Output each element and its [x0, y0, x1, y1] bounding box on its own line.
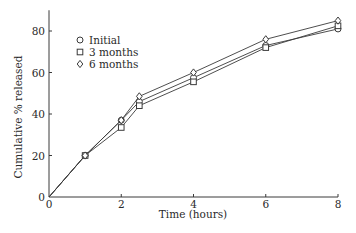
legend-item: 6 months [77, 58, 138, 70]
legend-label: Initial [89, 34, 121, 46]
y-tick-label: 0 [38, 191, 45, 203]
x-axis-label: Time (hours) [159, 208, 227, 220]
square-marker-icon [118, 125, 124, 131]
circle-legend-icon [77, 37, 83, 43]
y-tick-label: 80 [32, 25, 45, 37]
legend-label: 6 months [89, 58, 138, 70]
square-marker-icon [191, 79, 197, 85]
legend: Initial3 months6 months [77, 34, 138, 70]
x-tick-label: 6 [262, 198, 269, 210]
chart-canvas: 02468020406080 Initial3 months6 months T… [0, 0, 356, 233]
legend-label: 3 months [89, 46, 138, 58]
diamond-legend-icon [77, 60, 83, 67]
legend-item: Initial [77, 34, 121, 46]
square-legend-icon [77, 49, 83, 55]
y-tick-label: 20 [32, 150, 45, 162]
y-axis-label: Cumulative % released [12, 55, 24, 178]
release-profile-chart: 02468020406080 Initial3 months6 months T… [0, 0, 356, 233]
y-tick-label: 40 [32, 108, 45, 120]
x-tick-label: 2 [118, 198, 125, 210]
square-marker-icon [137, 103, 143, 109]
x-tick-label: 8 [335, 198, 342, 210]
x-tick-label: 0 [46, 198, 53, 210]
y-tick-label: 60 [32, 67, 45, 79]
square-marker-icon [263, 45, 269, 51]
diamond-marker-icon [263, 36, 269, 43]
legend-item: 3 months [77, 46, 138, 58]
